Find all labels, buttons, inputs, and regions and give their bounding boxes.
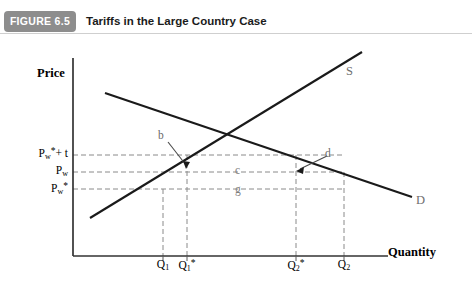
y-axis-title: Price	[37, 66, 65, 81]
x-axis-title: Quantity	[388, 245, 436, 260]
figure-number-badge: FIGURE 6.5	[4, 11, 76, 32]
x-tick-base: Q	[287, 259, 295, 271]
x-tick-sub: 2	[346, 263, 350, 272]
annotation-label-c: c	[235, 164, 240, 176]
annotation-label-g: g	[235, 183, 241, 195]
annotation-label-b: b	[158, 129, 164, 141]
figure-page: FIGURE 6.5 Tariffs in the Large Country …	[0, 0, 472, 298]
x-tick-label-q2: Q2	[327, 258, 361, 272]
quantity-gridlines	[163, 155, 344, 256]
demand-curve-label: D	[416, 193, 425, 208]
x-tick-label-q2-star: Q2*	[279, 258, 313, 273]
x-tick-sub: 1	[165, 263, 169, 272]
x-tick-base: Q	[338, 258, 346, 270]
y-tick-label-pw: Pw	[16, 164, 68, 178]
y-tick-label-pw-star-plus-t: Pw*+ t	[16, 146, 68, 161]
annotation-label-d: d	[325, 147, 331, 159]
chart-plot-area: Price Quantity S D b c d g Pw*+ t Pw Pw*…	[0, 34, 472, 298]
x-tick-sup: *	[191, 258, 196, 268]
x-tick-base: Q	[178, 259, 186, 271]
y-tick-sub: w	[62, 169, 68, 178]
axis-lines	[73, 58, 388, 256]
figure-header: FIGURE 6.5 Tariffs in the Large Country …	[0, 11, 472, 33]
figure-title: Tariffs in the Large Country Case	[86, 11, 267, 32]
x-tick-base: Q	[157, 258, 165, 270]
x-tick-sup: *	[300, 258, 305, 268]
y-tick-label-pw-star: Pw*	[16, 181, 68, 196]
x-tick-label-q1-star: Q1*	[170, 258, 204, 273]
y-tick-suffix: + t	[55, 147, 68, 159]
supply-curve-label: S	[346, 64, 353, 79]
y-tick-sup: *	[63, 181, 68, 191]
